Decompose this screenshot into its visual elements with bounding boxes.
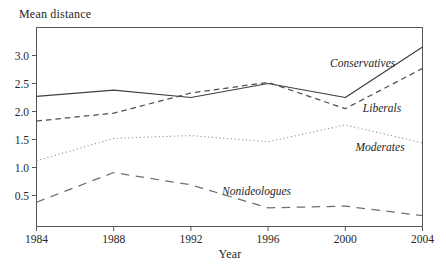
x-tick-label: 2004 (411, 233, 434, 245)
series-label-conservatives: Conservatives (330, 57, 396, 69)
x-tick-label: 1988 (102, 233, 125, 245)
series-label-moderates: Moderates (354, 141, 405, 153)
series-label-nonideologues: Nonideologues (221, 185, 292, 198)
y-tick-label: 2.5 (15, 78, 30, 90)
y-tick-label: 2.0 (15, 106, 30, 118)
x-tick-label: 1984 (25, 233, 48, 245)
chart-figure: Mean distance 0.51.01.52.02.53.019841988… (0, 0, 446, 274)
x-tick-label: 1992 (179, 233, 202, 245)
y-tick-label: 1.0 (15, 162, 30, 174)
x-tick-label: 2000 (334, 233, 357, 245)
y-tick-label: 0.5 (15, 190, 30, 202)
series-label-liberals: Liberals (362, 102, 402, 114)
y-tick-label: 3.0 (15, 50, 30, 62)
series-line-conservatives (37, 47, 423, 97)
x-axis-title: Year (37, 247, 423, 262)
y-tick-label: 1.5 (15, 134, 30, 146)
chart-svg: 0.51.01.52.02.53.01984198819921996200020… (0, 0, 446, 274)
x-tick-label: 1996 (257, 233, 280, 245)
